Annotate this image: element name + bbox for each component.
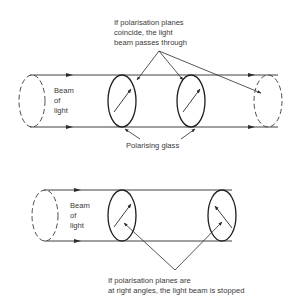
pointer-line — [159, 51, 183, 80]
polarisation-diagram: If polarisation planes coincide, the lig… — [0, 0, 303, 302]
top-caption-line-3: beam passes through — [114, 38, 187, 47]
pointer-line — [124, 223, 175, 270]
direction-arrow-icon — [248, 125, 255, 129]
direction-arrow-icon — [248, 73, 255, 77]
pointer-line — [181, 129, 195, 139]
beam-label-line-3: light — [54, 106, 69, 115]
beam-label-line-2: of — [54, 96, 61, 105]
direction-arrow-icon — [74, 188, 81, 192]
beam-label-line-3: light — [70, 221, 85, 230]
polarising-glass-label: Polarising glass — [126, 141, 179, 150]
beam-label-line-1: Beam — [54, 86, 74, 95]
direction-arrow-icon — [66, 73, 73, 77]
pointer-line — [159, 51, 261, 93]
bottom-panel: Beam of light If polarisation planes are… — [32, 188, 244, 295]
beam-cross-section-left — [19, 75, 45, 127]
pointer-line — [175, 222, 222, 270]
beam-cross-section-right — [254, 75, 282, 127]
bottom-caption-line-2: at right angles, the light beam is stopp… — [108, 286, 244, 295]
beam-label-line-1: Beam — [70, 201, 90, 210]
direction-arrow-icon — [66, 125, 73, 129]
pointer-line — [137, 51, 159, 80]
top-caption-line-1: If polarisation planes — [114, 18, 184, 27]
top-panel: If polarisation planes coincide, the lig… — [19, 18, 282, 150]
direction-arrow-icon — [74, 239, 81, 243]
beam-label-line-2: of — [70, 211, 77, 220]
top-caption-line-2: coincide, the light — [114, 28, 174, 37]
beam-cross-section-left — [32, 190, 58, 241]
pointer-line — [125, 129, 140, 139]
bottom-caption-line-1: If polarisation planes are — [108, 276, 191, 285]
